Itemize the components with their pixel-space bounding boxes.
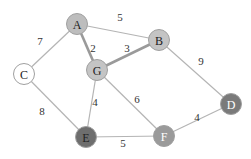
edge-weight-G-B: 3 bbox=[124, 42, 130, 54]
node-A: A bbox=[67, 14, 88, 35]
edge-weight-E-F: 5 bbox=[120, 137, 126, 149]
node-B: B bbox=[149, 30, 170, 51]
node-G: G bbox=[87, 60, 108, 81]
node-label-G: G bbox=[93, 64, 102, 78]
edge-G-F bbox=[97, 70, 164, 136]
node-C: C bbox=[14, 64, 35, 85]
edge-weight-A-C: 7 bbox=[37, 35, 43, 47]
node-label-D: D bbox=[227, 98, 236, 112]
edge-C-E bbox=[24, 74, 86, 137]
edge-A-B bbox=[77, 24, 159, 40]
edge-layer: 5723984654 bbox=[24, 11, 231, 149]
node-label-B: B bbox=[155, 34, 163, 48]
edge-weight-G-E: 4 bbox=[92, 96, 98, 108]
edge-weight-A-G: 2 bbox=[90, 42, 96, 54]
edge-weight-C-E: 8 bbox=[39, 105, 45, 117]
node-E: E bbox=[76, 127, 97, 148]
edge-B-D bbox=[159, 40, 231, 104]
edge-weight-B-D: 9 bbox=[198, 55, 204, 67]
node-label-E: E bbox=[82, 131, 89, 145]
weighted-graph: 5723984654 ABCGEFD bbox=[0, 0, 251, 159]
node-F: F bbox=[154, 126, 175, 147]
edge-weight-A-B: 5 bbox=[117, 11, 123, 23]
edge-weight-G-F: 6 bbox=[134, 93, 140, 105]
edge-weight-F-D: 4 bbox=[194, 111, 200, 123]
node-label-F: F bbox=[161, 130, 168, 144]
node-D: D bbox=[221, 94, 242, 115]
node-label-A: A bbox=[73, 18, 82, 32]
node-label-C: C bbox=[20, 68, 28, 82]
